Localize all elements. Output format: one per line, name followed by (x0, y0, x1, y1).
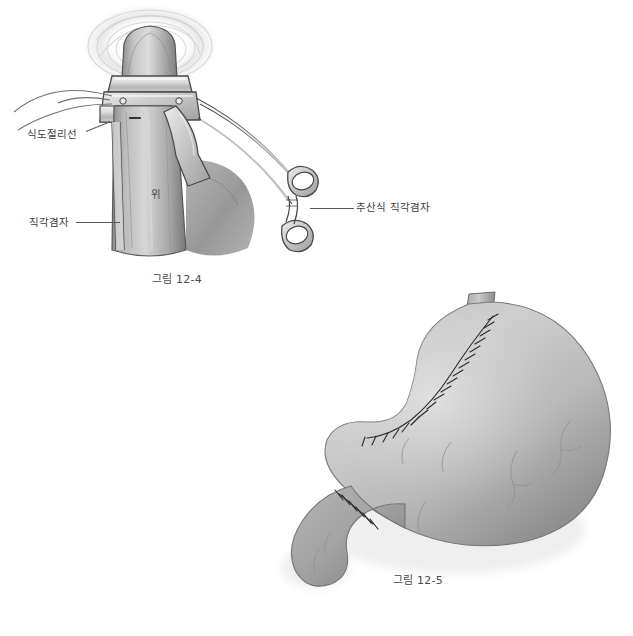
illustration-page: 식도절리선 직각겸자 추산식 직각겸자 위 그림 12-4 (0, 0, 633, 636)
figure-12-4-drawing (0, 0, 470, 300)
clamp-upper-bar (108, 76, 192, 92)
caption-figure-12-4: 그림 12-4 (152, 270, 202, 286)
label-esophagus-cut-line: 식도절리선 (27, 126, 78, 141)
suture-threads (14, 90, 112, 130)
figure-12-4 (0, 0, 470, 300)
pursestring-clamp-handles (282, 166, 319, 251)
figure-12-5 (255, 280, 633, 600)
label-stomach: 위 (151, 186, 161, 201)
caption-figure-12-5: 그림 12-5 (393, 571, 443, 587)
leader-line-pursestring-clamp (310, 208, 354, 209)
leader-line-right-angle-clamp (76, 222, 120, 223)
esophagus (122, 26, 177, 78)
label-right-angle-clamp: 직각겸자 (29, 214, 69, 229)
figure-12-5-drawing (255, 280, 633, 600)
label-pursestring-clamp: 추산식 직각겸자 (356, 199, 430, 214)
